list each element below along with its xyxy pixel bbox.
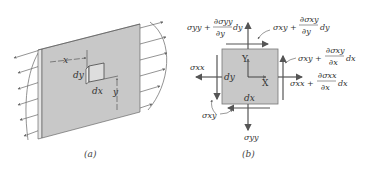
svg-text:dx: dx — [346, 54, 356, 63]
svg-text:∂σyy: ∂σyy — [214, 17, 233, 26]
element-dx-label: dx — [244, 93, 255, 103]
svg-text:dx: dx — [338, 79, 348, 88]
right-traction-arrows — [140, 22, 167, 108]
Y-axis-label: Y — [241, 54, 249, 64]
svg-text:dy: dy — [320, 23, 330, 32]
stress-diagram: x dy dx y (a) Y X dy dx — [0, 0, 370, 171]
dy-label: dy — [73, 70, 85, 80]
x-label: x — [63, 55, 68, 65]
small-element — [89, 63, 104, 82]
label-top-normal: σyy + ∂σyy ∂y dy — [187, 17, 243, 38]
svg-text:∂x: ∂x — [329, 58, 338, 67]
X-axis-label: X — [262, 78, 269, 88]
svg-text:σxx +: σxx + — [290, 79, 314, 88]
figure-a: x dy dx y (a) — [14, 22, 167, 159]
figure-b: Y X dy dx σyy + ∂σyy ∂y dy — [187, 15, 356, 159]
svg-text:σyy +: σyy + — [187, 23, 211, 32]
label-right-shear: σxy + ∂σxy ∂x dx — [298, 46, 356, 67]
element-dy-label: dy — [224, 72, 236, 82]
svg-text:dy: dy — [233, 23, 243, 32]
caption-a: (a) — [84, 149, 97, 159]
plate-edge — [38, 49, 42, 139]
svg-text:∂y: ∂y — [216, 29, 225, 38]
svg-text:∂σxx: ∂σxx — [318, 71, 337, 80]
caption-b: (b) — [242, 149, 255, 159]
svg-text:∂x: ∂x — [321, 83, 330, 92]
label-top-shear: σxy + ∂σxy ∂y dy — [273, 15, 330, 36]
label-bottom-normal: σyy — [244, 133, 259, 142]
y-label: y — [112, 87, 119, 97]
svg-text:∂y: ∂y — [302, 27, 311, 36]
right-load-curve — [148, 22, 167, 110]
label-right-normal: σxx + ∂σxx ∂x dx — [290, 71, 348, 92]
label-left-normal: σxx — [190, 63, 205, 72]
svg-text:∂σxy: ∂σxy — [300, 15, 319, 24]
dx-label: dx — [92, 86, 103, 96]
small-element-side — [86, 66, 89, 84]
label-left-shear: σxy — [202, 111, 217, 120]
svg-text:σxy +: σxy + — [298, 54, 322, 63]
svg-text:∂σxy: ∂σxy — [326, 46, 345, 55]
svg-text:σxy +: σxy + — [273, 23, 297, 32]
